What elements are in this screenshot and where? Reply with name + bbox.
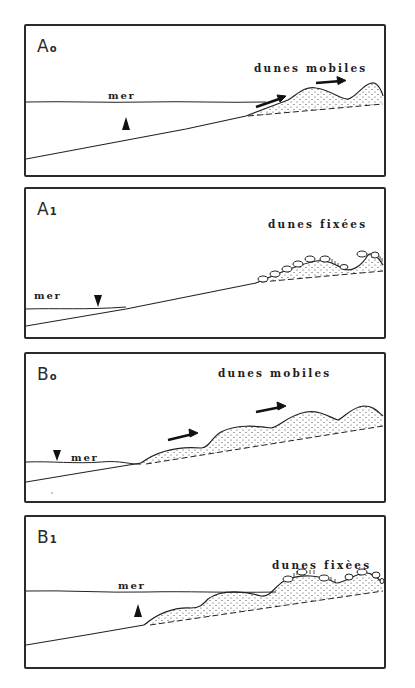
sea-level-up-icon — [122, 117, 130, 130]
ground-profile — [26, 283, 256, 326]
sea-surface — [26, 462, 141, 465]
ground-profile — [26, 625, 144, 645]
sea-surface — [26, 307, 126, 309]
wind-arrow-icon — [316, 77, 346, 85]
panel-a0: Ao dunes mobiles mer — [24, 24, 386, 177]
wind-arrow-icon — [256, 402, 286, 412]
sea-level-down-icon — [53, 450, 61, 461]
ground-profile — [26, 100, 288, 159]
panel-b1: B1 dunes fixèes mer — [24, 515, 386, 669]
profile-a0 — [26, 26, 384, 175]
panel-b0: Bo dunes mobiles mer — [24, 352, 386, 503]
speck — [51, 492, 52, 493]
profile-b1 — [26, 517, 384, 667]
sea-surface — [26, 102, 266, 103]
panel-a1: A1 dunes fixées mer — [24, 187, 386, 339]
sea-level-down-icon — [94, 295, 102, 307]
profile-a1 — [26, 189, 384, 337]
sea-level-up-icon — [134, 604, 142, 617]
ground-profile — [26, 463, 141, 482]
profile-b0 — [26, 354, 384, 501]
wind-arrow-icon — [168, 429, 198, 440]
